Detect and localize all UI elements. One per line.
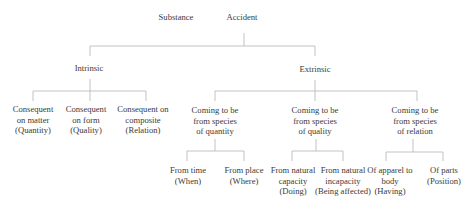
node-from-place: From place (Where) [225, 165, 264, 186]
node-consequent-on-matter: Consequent on matter (Quantity) [13, 104, 54, 136]
node-label-line: Coming to be [192, 105, 239, 116]
node-label-line: body [367, 176, 412, 187]
node-substance: Substance [159, 12, 194, 23]
node-label-line: (Doing) [271, 186, 316, 197]
node-label-line: from species [192, 116, 239, 127]
node-label-line: Of apparel to [367, 165, 412, 176]
node-from-time: From time (When) [170, 165, 206, 186]
node-label-line: (Being affected) [315, 186, 371, 197]
node-label-line: Of parts [427, 165, 461, 176]
node-label: Extrinsic [299, 64, 330, 75]
node-label-line: on form [66, 115, 107, 126]
node-species-of-relation: Coming to be from species of relation [392, 105, 439, 137]
node-accident: Accident [226, 12, 257, 23]
node-label-line: incapacity [315, 176, 371, 187]
node-label-line: (When) [170, 176, 206, 187]
node-of-apparel-to-body: Of apparel to body (Having) [367, 165, 412, 197]
node-label: Accident [226, 12, 257, 23]
node-extrinsic: Extrinsic [299, 64, 330, 75]
node-label-line: (Relation) [117, 125, 168, 136]
node-label-line: from species [392, 116, 439, 127]
node-label-line: From natural [271, 165, 316, 176]
node-label-line: From time [170, 165, 206, 176]
node-label-line: (Quantity) [13, 125, 54, 136]
node-species-of-quality: Coming to be from species of quality [292, 105, 339, 137]
node-label-line: composite [117, 115, 168, 126]
node-label: Intrinsic [75, 63, 104, 74]
node-label-line: (Position) [427, 176, 461, 187]
node-consequent-on-composite: Consequent on composite (Relation) [117, 104, 168, 136]
node-consequent-on-form: Consequent on form (Quality) [66, 104, 107, 136]
node-label: Substance [159, 12, 194, 23]
node-from-natural-incapacity: From natural incapacity (Being affected) [315, 165, 371, 197]
node-label-line: on matter [13, 115, 54, 126]
node-label-line: of quantity [192, 126, 239, 137]
node-of-parts: Of parts (Position) [427, 165, 461, 186]
node-from-natural-capacity: From natural capacity (Doing) [271, 165, 316, 197]
node-label-line: From place [225, 165, 264, 176]
node-label-line: of quality [292, 126, 339, 137]
node-label-line: (Quality) [66, 125, 107, 136]
node-label-line: (Where) [225, 176, 264, 187]
node-intrinsic: Intrinsic [75, 63, 104, 74]
node-label-line: capacity [271, 176, 316, 187]
node-label-line: Consequent on [117, 104, 168, 115]
category-tree-diagram: Substance Accident Intrinsic Extrinsic C… [0, 0, 472, 206]
node-label-line: (Having) [367, 186, 412, 197]
node-label-line: of relation [392, 126, 439, 137]
node-label-line: Consequent [13, 104, 54, 115]
node-label-line: from species [292, 116, 339, 127]
node-species-of-quantity: Coming to be from species of quantity [192, 105, 239, 137]
node-label-line: Consequent [66, 104, 107, 115]
node-label-line: Coming to be [292, 105, 339, 116]
node-label-line: Coming to be [392, 105, 439, 116]
node-label-line: From natural [315, 165, 371, 176]
